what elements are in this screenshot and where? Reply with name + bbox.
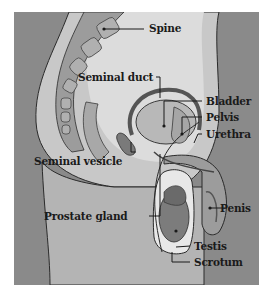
label-spine: Spine bbox=[149, 23, 181, 34]
label-pelvis: Pelvis bbox=[206, 112, 239, 123]
label-testis: Testis bbox=[194, 241, 227, 252]
label-urethra: Urethra bbox=[206, 129, 251, 140]
diagram-frame: Spine Seminal duct Bladder Pelvis Urethr… bbox=[14, 12, 259, 285]
label-prostate-gland: Prostate gland bbox=[44, 211, 128, 222]
label-penis: Penis bbox=[220, 203, 251, 214]
label-bladder: Bladder bbox=[206, 96, 251, 107]
label-scrotum: Scrotum bbox=[194, 257, 243, 268]
label-seminal-duct: Seminal duct bbox=[78, 72, 153, 83]
label-seminal-vesicle: Seminal vesicle bbox=[34, 156, 122, 167]
